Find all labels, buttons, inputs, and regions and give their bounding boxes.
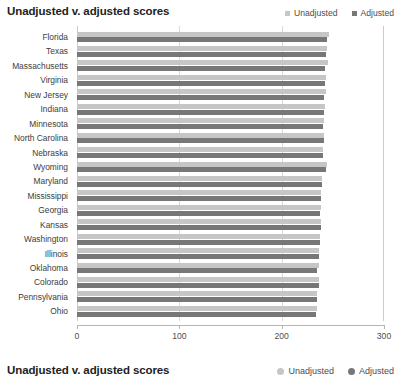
bar-row	[77, 146, 384, 160]
bar-row	[77, 73, 384, 87]
y-axis-label: New Jersey	[0, 88, 72, 102]
legend-item-adjusted-bottom[interactable]: Adjusted	[348, 366, 394, 376]
legend-top: Unadjusted Adjusted	[285, 8, 394, 18]
bar-adjusted[interactable]	[77, 182, 322, 187]
bar-unadjusted[interactable]	[77, 234, 320, 239]
y-axis-label: Virginia	[0, 73, 72, 87]
bar-unadjusted[interactable]	[77, 248, 319, 253]
bar-row	[77, 275, 384, 289]
bar-row	[77, 30, 384, 44]
x-axis-tick	[384, 325, 385, 329]
bar-unadjusted[interactable]	[77, 75, 326, 80]
legend-item-adjusted[interactable]: Adjusted	[352, 8, 394, 18]
x-axis-tick-label: 0	[75, 331, 80, 341]
bar-unadjusted[interactable]	[77, 205, 321, 210]
bar-adjusted[interactable]	[77, 124, 323, 129]
footer-title: Unadjusted v. adjusted scores	[7, 364, 169, 376]
bar-adjusted[interactable]	[77, 312, 316, 317]
y-axis-label: Mississippi	[0, 189, 72, 203]
bar-adjusted[interactable]	[77, 66, 325, 71]
y-axis-label: Washington	[0, 232, 72, 246]
bar-adjusted[interactable]	[77, 196, 321, 201]
y-axis-label: Wyoming	[0, 160, 72, 174]
y-axis-label: Massachusetts	[0, 59, 72, 73]
y-axis-label: Oklahoma	[0, 261, 72, 275]
chart-plot-area: FloridaTexasMassachusettsVirginiaNew Jer…	[0, 26, 402, 354]
y-axis-label: North Carolina	[0, 131, 72, 145]
bar-row	[77, 131, 384, 145]
y-axis-label: Illinois	[0, 247, 72, 261]
y-axis-label: Texas	[0, 44, 72, 58]
bar-unadjusted[interactable]	[77, 104, 325, 109]
bar-unadjusted[interactable]	[77, 291, 317, 296]
bar-unadjusted[interactable]	[77, 118, 324, 123]
bar-unadjusted[interactable]	[77, 89, 326, 94]
square-marker-unadjusted-icon	[285, 11, 290, 16]
bar-unadjusted[interactable]	[77, 60, 328, 65]
bar-row	[77, 218, 384, 232]
bar-adjusted[interactable]	[77, 81, 325, 86]
y-axis-label: Ohio	[0, 304, 72, 318]
y-axis-labels: FloridaTexasMassachusettsVirginiaNew Jer…	[0, 30, 72, 319]
bar-unadjusted[interactable]	[77, 32, 329, 37]
bar-unadjusted[interactable]	[77, 277, 319, 282]
bar-adjusted[interactable]	[77, 95, 324, 100]
bar-unadjusted[interactable]	[77, 46, 327, 51]
bar-row	[77, 203, 384, 217]
bar-adjusted[interactable]	[77, 37, 327, 42]
square-marker-adjusted-icon	[352, 11, 357, 16]
bar-row	[77, 117, 384, 131]
y-axis-label: Indiana	[0, 102, 72, 116]
bar-adjusted[interactable]	[77, 52, 326, 57]
y-axis-label: Pennsylvania	[0, 290, 72, 304]
bar-row	[77, 261, 384, 275]
bar-adjusted[interactable]	[77, 268, 317, 273]
legend-item-unadjusted[interactable]: Unadjusted	[285, 8, 337, 18]
bar-unadjusted[interactable]	[77, 219, 321, 224]
legend-label-adjusted: Adjusted	[361, 8, 394, 18]
bar-adjusted[interactable]	[77, 283, 319, 288]
bar-adjusted[interactable]	[77, 254, 319, 259]
plot-panel	[77, 30, 384, 319]
bar-row	[77, 232, 384, 246]
chart-footer: Unadjusted v. adjusted scores Unadjusted…	[0, 360, 402, 386]
y-axis-label: Nebraska	[0, 146, 72, 160]
bar-row	[77, 290, 384, 304]
legend-label-unadjusted-bottom: Unadjusted	[288, 366, 334, 376]
y-axis-label: Colorado	[0, 275, 72, 289]
bar-unadjusted[interactable]	[77, 133, 324, 138]
legend-bottom: Unadjusted Adjusted	[277, 366, 394, 376]
x-axis-line	[77, 325, 384, 326]
bar-row	[77, 102, 384, 116]
bar-adjusted[interactable]	[77, 297, 317, 302]
bar-adjusted[interactable]	[77, 110, 324, 115]
bar-adjusted[interactable]	[77, 240, 320, 245]
legend-label-unadjusted: Unadjusted	[294, 8, 337, 18]
bar-adjusted[interactable]	[77, 153, 323, 158]
bar-row	[77, 304, 384, 318]
y-axis-label: Kansas	[0, 218, 72, 232]
bar-unadjusted[interactable]	[77, 263, 319, 268]
bar-adjusted[interactable]	[77, 211, 320, 216]
bar-row	[77, 160, 384, 174]
bar-adjusted[interactable]	[77, 225, 321, 230]
legend-label-adjusted-bottom: Adjusted	[359, 366, 394, 376]
bar-unadjusted[interactable]	[77, 176, 322, 181]
bar-adjusted[interactable]	[77, 138, 324, 143]
bar-row	[77, 88, 384, 102]
bar-adjusted[interactable]	[77, 167, 326, 172]
x-axis-tick	[77, 325, 78, 329]
bar-unadjusted[interactable]	[77, 147, 323, 152]
bar-rows	[77, 30, 384, 319]
x-axis-tick	[282, 325, 283, 329]
bar-unadjusted[interactable]	[77, 162, 327, 167]
chart-header: Unadjusted v. adjusted scores Unadjusted…	[0, 0, 402, 26]
bar-row	[77, 189, 384, 203]
bar-unadjusted[interactable]	[77, 190, 321, 195]
y-axis-label: Maryland	[0, 174, 72, 188]
y-axis-label: Minnesota	[0, 117, 72, 131]
legend-item-unadjusted-bottom[interactable]: Unadjusted	[277, 366, 334, 376]
bar-row	[77, 59, 384, 73]
bar-row	[77, 44, 384, 58]
bar-unadjusted[interactable]	[77, 306, 317, 311]
